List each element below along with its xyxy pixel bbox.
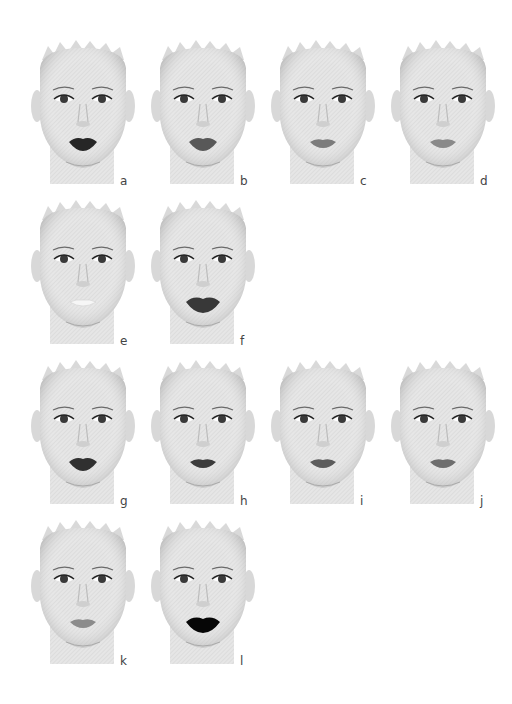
face-panel-a: a [28, 38, 148, 198]
face-panel-k: k [28, 518, 148, 678]
panel-label: k [120, 655, 127, 667]
panel-label: l [240, 655, 243, 667]
face-illustration [148, 198, 258, 348]
panel-label: d [480, 175, 488, 187]
face-illustration [28, 198, 138, 348]
panel-label: a [120, 175, 127, 187]
panel-label: f [240, 335, 244, 347]
panel-label: g [120, 495, 128, 507]
face-panel-c: c [268, 38, 388, 198]
face-illustration [148, 358, 258, 508]
face-panel-i: i [268, 358, 388, 518]
face-panel-e: e [28, 198, 148, 358]
face-illustration [28, 518, 138, 668]
panel-label: h [240, 495, 248, 507]
face-illustration [268, 38, 378, 188]
face-illustration [28, 358, 138, 508]
face-panel-j: j [388, 358, 508, 518]
panel-label: c [360, 175, 367, 187]
face-panel-d: d [388, 38, 508, 198]
panel-label: j [480, 495, 483, 507]
panel-label: b [240, 175, 248, 187]
face-illustration [148, 38, 258, 188]
face-illustration [148, 518, 258, 668]
face-panel-f: f [148, 198, 268, 358]
face-panel-h: h [148, 358, 268, 518]
panel-label: i [360, 495, 363, 507]
face-illustration [268, 358, 378, 508]
face-illustration [388, 358, 498, 508]
face-panel-g: g [28, 358, 148, 518]
face-panel-b: b [148, 38, 268, 198]
panel-label: e [120, 335, 127, 347]
face-illustration [28, 38, 138, 188]
face-illustration [388, 38, 498, 188]
face-panel-l: l [148, 518, 268, 678]
